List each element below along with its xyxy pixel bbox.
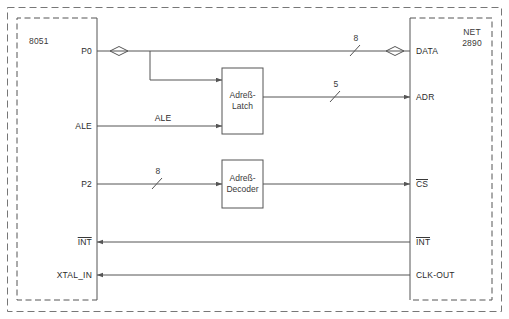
block-net2890-title-line1: NET [463, 27, 481, 37]
bus-width-label-p2: 8 [156, 166, 161, 176]
pin-label-p2: P2 [81, 179, 92, 189]
box-adress-decoder-line2: Decoder [226, 184, 258, 195]
box-adress-latch-line1: Adreß- [230, 90, 256, 101]
block-net2890-outline [410, 18, 492, 300]
pin-label-adr: ADR [416, 92, 435, 102]
wire-label-ale: ALE [155, 113, 172, 123]
pin-label-cs: CS [416, 179, 428, 189]
pin-label-int-right: INT [416, 237, 430, 247]
wire-p0-branch-to-latch [150, 51, 222, 80]
block-8051-outline [17, 18, 97, 300]
pin-label-data: DATA [416, 46, 438, 56]
box-adress-decoder-line1: Adreß- [226, 173, 258, 184]
box-adress-latch-line2: Latch [230, 101, 256, 112]
box-adress-latch-label: Adreß- Latch [230, 90, 256, 112]
bus-width-label-data: 8 [354, 33, 359, 43]
pin-label-int-left: INT [78, 237, 92, 247]
pin-label-clk-out: CLK-OUT [416, 270, 455, 280]
bus-width-label-adr: 5 [334, 79, 339, 89]
pin-label-ale: ALE [75, 121, 92, 131]
pin-label-xtal-in: XTAL_IN [57, 270, 92, 280]
block-diagram-canvas: 8051 P0 ALE P2 INT XTAL_IN NET 2890 DATA… [0, 0, 509, 319]
block-net2890-title-line2: 2890 [462, 38, 482, 48]
pin-label-p0: P0 [81, 46, 92, 56]
box-adress-decoder-label: Adreß- Decoder [226, 173, 258, 195]
block-8051-title: 8051 [29, 36, 49, 46]
